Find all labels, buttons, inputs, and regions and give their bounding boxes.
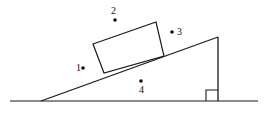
point-dot-3 [170, 30, 174, 34]
point-label-1: 1 [76, 62, 81, 73]
point-dot-4 [139, 79, 143, 83]
point-label-2: 2 [111, 5, 116, 16]
block-on-incline [93, 22, 164, 73]
point-label-4: 4 [139, 84, 144, 95]
diagram-svg: 1234 [0, 0, 270, 117]
point-dot-1 [81, 66, 85, 70]
right-angle-marker [206, 90, 218, 101]
point-dot-2 [113, 18, 117, 22]
point-label-3: 3 [177, 26, 182, 37]
physics-diagram-canvas: 1234 [0, 0, 270, 117]
